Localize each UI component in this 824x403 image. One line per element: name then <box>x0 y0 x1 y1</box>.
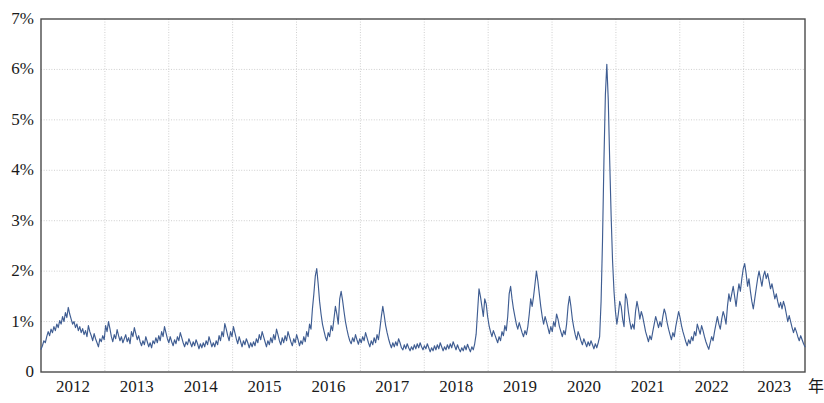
x-tick-label: 2019 <box>494 378 546 395</box>
x-tick-label: 2016 <box>302 378 354 395</box>
x-tick-label: 2023 <box>748 378 800 395</box>
x-tick-label: 2012 <box>47 378 99 395</box>
x-tick-label: 2021 <box>622 378 674 395</box>
x-tick-label: 2015 <box>239 378 291 395</box>
x-tick-label: 2022 <box>686 378 738 395</box>
x-tick-label: 2013 <box>111 378 163 395</box>
x-tick-label: 2020 <box>558 378 610 395</box>
x-tick-label: 2018 <box>430 378 482 395</box>
x-axis-unit-label: 年 <box>808 378 824 395</box>
x-tick-label: 2017 <box>366 378 418 395</box>
x-tick-label: 2014 <box>175 378 227 395</box>
